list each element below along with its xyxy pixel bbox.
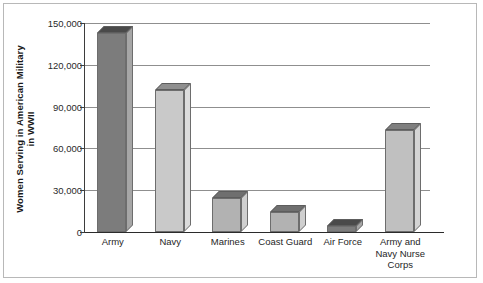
bar (97, 33, 126, 232)
bar (212, 198, 241, 232)
bar-front-face (97, 33, 126, 232)
bar-front-face (155, 90, 184, 232)
y-axis-tick-label: 60,000 (24, 143, 82, 154)
gridline (85, 23, 430, 24)
bar (270, 212, 299, 232)
chart-figure: Women Serving in American Military in WW… (3, 3, 477, 278)
x-axis-category-label-line: Army and (367, 236, 435, 248)
gridline (85, 107, 430, 108)
y-axis-tick-mark (80, 148, 85, 149)
bar-top-face (385, 123, 421, 130)
y-axis-line (84, 23, 85, 232)
gridline (85, 190, 430, 191)
bar-front-face (270, 212, 299, 232)
y-axis-tick-label: 30,000 (24, 185, 82, 196)
y-axis-tick-mark (80, 107, 85, 108)
x-axis-category-label-line: Corps (367, 259, 435, 271)
bar-side-face (241, 191, 248, 232)
y-axis-tick-label: 0 (24, 227, 82, 238)
x-axis-category-labels: ArmyNavyMarinesCoast GuardAir ForceArmy … (85, 236, 435, 280)
bar (327, 226, 356, 232)
y-axis-tick-labels: 030,00060,00090,000120,000150,000 (24, 4, 82, 279)
y-axis-tick-label: 120,000 (24, 59, 82, 70)
bar-side-face (184, 83, 191, 232)
y-axis-tick-label: 150,000 (24, 18, 82, 29)
bar-front-face (212, 198, 241, 232)
bar-side-face (126, 26, 133, 232)
y-axis-tick-mark (80, 65, 85, 66)
x-axis-category-label-line: Navy Nurse (367, 248, 435, 260)
y-axis-tick-mark (80, 232, 85, 233)
gridline (85, 65, 430, 66)
bar-front-face (385, 130, 414, 232)
y-axis-tick-mark (80, 190, 85, 191)
bar (385, 130, 414, 232)
y-axis-tick-label: 90,000 (24, 101, 82, 112)
bar-front-face (327, 226, 356, 232)
bar (155, 90, 184, 232)
y-axis-tick-mark (80, 23, 85, 24)
gridline (85, 148, 430, 149)
x-axis-category-label: Army andNavy NurseCorps (367, 236, 435, 271)
plot-area (85, 23, 430, 232)
bar-side-face (414, 123, 421, 232)
